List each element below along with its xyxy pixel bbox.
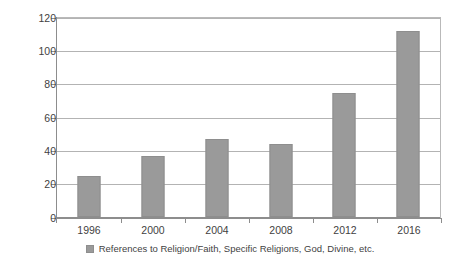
x-tick-mark-0 [56, 218, 57, 223]
y-tick-label-20: 20 [10, 179, 56, 190]
y-tick-label-40: 40 [10, 146, 56, 157]
bar-slot-2000 [121, 18, 185, 217]
x-tick-mark-2 [185, 218, 186, 223]
bar-slot-2016 [376, 18, 440, 217]
bar-2012[interactable] [333, 93, 356, 217]
legend-swatch-icon [86, 245, 94, 253]
x-tick-label-2004: 2004 [185, 225, 249, 236]
y-axis-line [56, 17, 57, 218]
x-tick-mark-3 [249, 218, 250, 223]
x-tick-mark-4 [313, 218, 314, 223]
y-tick-label-100: 100 [10, 46, 56, 57]
x-tick-label-2016: 2016 [377, 225, 441, 236]
y-tick-label-60: 60 [10, 113, 56, 124]
x-tick-mark-5 [377, 218, 378, 223]
x-tick-label-2008: 2008 [249, 225, 313, 236]
x-tick-label-2000: 2000 [121, 225, 185, 236]
bar-chart: 120 100 80 60 40 20 0 1996 2000 2004 200… [0, 0, 460, 261]
y-tick-label-0: 0 [10, 213, 56, 224]
bars-layer [57, 18, 440, 217]
legend: References to Religion/Faith, Specific R… [0, 243, 460, 254]
bar-2016[interactable] [397, 31, 420, 217]
bar-2000[interactable] [142, 156, 165, 217]
bar-2004[interactable] [206, 139, 229, 217]
y-tick-label-120: 120 [10, 13, 56, 24]
x-tick-label-2012: 2012 [313, 225, 377, 236]
legend-label: References to Religion/Faith, Specific R… [99, 243, 375, 254]
x-tick-label-1996: 1996 [57, 225, 121, 236]
x-tick-mark-1 [121, 218, 122, 223]
bar-2008[interactable] [270, 144, 293, 217]
bar-1996[interactable] [78, 176, 101, 218]
bar-slot-2012 [312, 18, 376, 217]
y-tick-label-80: 80 [10, 79, 56, 90]
bar-slot-1996 [57, 18, 121, 217]
x-tick-mark-6 [441, 218, 442, 223]
bar-slot-2004 [185, 18, 249, 217]
bar-slot-2008 [249, 18, 313, 217]
